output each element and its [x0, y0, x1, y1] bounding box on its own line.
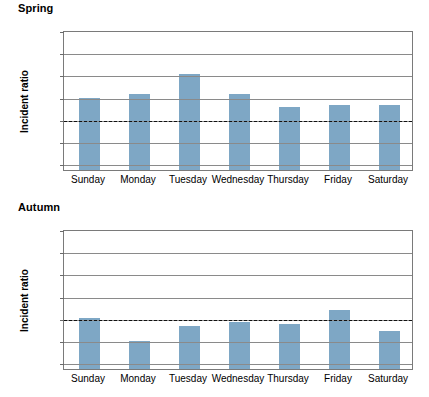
y-tick-mark	[60, 253, 64, 254]
reference-line	[64, 121, 412, 122]
gridline	[64, 99, 412, 100]
y-tick-mark	[60, 143, 64, 144]
y-axis-label-autumn: Incident ratio	[19, 246, 30, 356]
gridline	[64, 342, 412, 343]
gridline	[64, 275, 412, 276]
plot-area-autumn	[63, 230, 413, 370]
bar-series-autumn	[64, 231, 412, 369]
bar-sunday	[79, 98, 100, 170]
incident-ratio-figure: Spring Incident ratio 0.900.951.001.051.…	[0, 0, 429, 397]
y-tick-mark	[60, 165, 64, 166]
bar-saturday	[379, 331, 400, 369]
y-tick-mark	[60, 364, 64, 365]
bar-series-spring	[64, 32, 412, 170]
bar-thursday	[279, 324, 300, 369]
bar-sunday	[79, 318, 100, 369]
y-tick-mark	[60, 342, 64, 343]
y-tick-mark	[60, 32, 64, 33]
panel-title-spring: Spring	[18, 2, 53, 15]
gridline	[64, 76, 412, 77]
bar-thursday	[279, 107, 300, 170]
gridline	[64, 165, 412, 166]
bar-tuesday	[179, 326, 200, 369]
bar-wednesday	[229, 94, 250, 170]
chart-panel-spring: Spring Incident ratio 0.900.951.001.051.…	[0, 0, 429, 198]
y-tick-mark	[60, 54, 64, 55]
plot-area-spring	[63, 31, 413, 171]
y-tick-mark	[60, 99, 64, 100]
bar-friday	[329, 105, 350, 170]
gridline	[64, 54, 412, 55]
bar-wednesday	[229, 322, 250, 369]
panel-title-autumn: Autumn	[18, 201, 60, 214]
reference-line	[64, 320, 412, 321]
y-tick-mark	[60, 275, 64, 276]
y-tick-mark	[60, 231, 64, 232]
y-axis-label-spring: Incident ratio	[19, 47, 30, 157]
bar-monday	[129, 94, 150, 170]
y-tick-mark	[60, 298, 64, 299]
gridline	[64, 253, 412, 254]
chart-panel-autumn: Autumn Incident ratio 0.900.951.001.051.…	[0, 199, 429, 397]
x-tick-label: Saturday	[348, 373, 428, 384]
gridline	[64, 143, 412, 144]
gridline	[64, 298, 412, 299]
x-tick-label: Saturday	[348, 174, 428, 185]
y-tick-mark	[60, 76, 64, 77]
bar-tuesday	[179, 74, 200, 170]
gridline	[64, 364, 412, 365]
bar-saturday	[379, 105, 400, 170]
